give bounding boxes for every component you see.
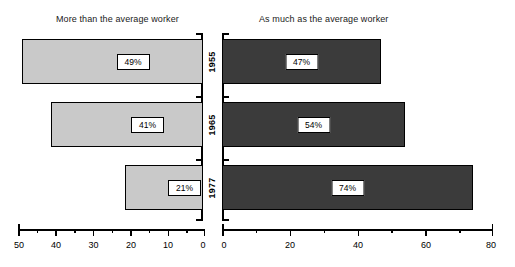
left-axis-major-tick (55, 229, 57, 236)
left-axis-tick-label: 30 (88, 240, 98, 250)
right-axis-major-tick (290, 229, 292, 236)
category-labels: 1955 1965 1977 (203, 33, 222, 221)
right-axis-endcap (492, 224, 494, 231)
chart-container: More than the average worker As much as … (0, 0, 515, 267)
bar-right-1977: 74% (222, 165, 473, 210)
left-axis-tick (196, 96, 201, 98)
right-panel-title: As much as the average worker (259, 14, 388, 24)
left-panel-title: More than the average worker (56, 14, 179, 24)
bar-left-1965: 41% (51, 102, 203, 147)
left-axis-minor-tick (186, 229, 188, 233)
right-axis-tick-label: 60 (421, 240, 431, 250)
bar-left-1955: 49% (22, 39, 203, 84)
bar-left-1977: 21% (125, 165, 203, 210)
right-axis-minor-tick (324, 229, 326, 233)
left-axis-major-tick (204, 229, 206, 236)
left-axis-tick-label: 0 (200, 240, 205, 250)
bar-value-label: 21% (168, 180, 201, 196)
right-axis-tick-label: 0 (221, 240, 226, 250)
left-axis-minor-tick (37, 229, 39, 233)
right-axis-tick-label: 80 (486, 240, 496, 250)
left-axis-tick (196, 33, 201, 35)
left-axis-tick (196, 159, 201, 161)
left-axis-minor-tick (149, 229, 151, 233)
left-axis-tick-label: 10 (163, 240, 173, 250)
right-axis-minor-tick (459, 229, 461, 233)
category-label-text: 1977 (208, 177, 218, 198)
left-axis-minor-tick (112, 229, 114, 233)
bar-value-label: 47% (285, 54, 318, 70)
category-label-1955: 1955 (203, 39, 222, 84)
left-axis-major-tick (130, 229, 132, 236)
right-axis-tick (224, 33, 229, 35)
right-axis-tick-label: 40 (353, 240, 363, 250)
right-plot-area: 47% 54% 74% (222, 33, 493, 221)
right-axis-minor-tick (391, 229, 393, 233)
right-axis-major-tick (222, 229, 224, 236)
right-axis-minor-tick (256, 229, 258, 233)
right-axis-major-tick (425, 229, 427, 236)
bar-right-1965: 54% (222, 102, 405, 147)
bar-value-label: 54% (297, 117, 330, 133)
category-label-text: 1965 (208, 114, 218, 135)
left-axis-tick (196, 219, 201, 221)
bar-value-label: 41% (131, 117, 164, 133)
right-axis-tick (224, 219, 229, 221)
left-axis-tick-label: 20 (126, 240, 136, 250)
category-label-text: 1955 (208, 51, 218, 72)
bar-right-1955: 47% (222, 39, 381, 84)
left-axis-major-tick (168, 229, 170, 236)
bar-value-label: 49% (117, 54, 150, 70)
right-axis-tick (224, 159, 229, 161)
right-axis-tick (224, 96, 229, 98)
left-axis-major-tick (93, 229, 95, 236)
category-label-1977: 1977 (203, 165, 222, 210)
left-axis-minor-tick (74, 229, 76, 233)
left-axis-tick-label: 40 (51, 240, 61, 250)
left-plot-area: 49% 41% 21% (18, 33, 203, 221)
category-label-1965: 1965 (203, 102, 222, 147)
left-axis-tick-label: 50 (14, 240, 24, 250)
right-axis-tick-label: 20 (285, 240, 295, 250)
right-axis-major-tick (358, 229, 360, 236)
left-axis-major-tick (18, 229, 20, 236)
bar-value-label: 74% (331, 180, 364, 196)
